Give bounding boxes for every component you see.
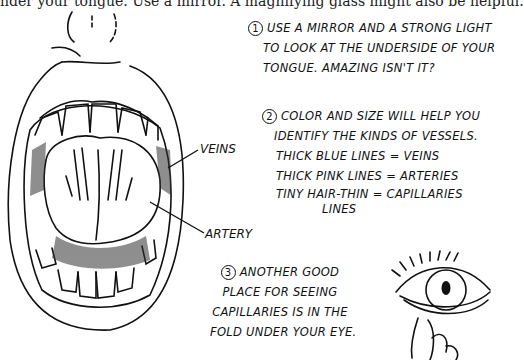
- note-2-line-1: COLOR AND SIZE WILL HELP YOU: [281, 109, 480, 123]
- note-2-line-5: TINY HAIR-THIN = CAPILLARIES: [262, 186, 480, 202]
- note-3-line-3: CAPILLARIES IS IN THE: [210, 302, 350, 322]
- note-1-line-3: TONGUE. AMAZING ISN'T IT?: [248, 58, 495, 78]
- note-2: 2COLOR AND SIZE WILL HELP YOU IDENTIFY T…: [262, 106, 480, 216]
- note-2-line-4: THICK PINK LINES = ARTERIES: [262, 166, 480, 186]
- note-2-line-2: IDENTIFY THE KINDS OF VESSELS.: [262, 126, 480, 146]
- note-3-line-1: ANOTHER GOOD: [240, 265, 340, 279]
- note-2-line-3: THICK BLUE LINES = VEINS: [262, 146, 480, 166]
- note-1-line-1: USE A MIRROR AND A STRONG LIGHT: [267, 21, 492, 35]
- note-3-line-4: FOLD UNDER YOUR EYE.: [210, 322, 350, 342]
- note-1: 1USE A MIRROR AND A STRONG LIGHT TO LOOK…: [248, 18, 495, 78]
- note-number-1: 1: [248, 21, 263, 36]
- note-number-2: 2: [262, 109, 277, 124]
- veins-label: VEINS: [200, 142, 236, 156]
- note-1-line-2: TO LOOK AT THE UNDERSIDE OF YOUR: [248, 38, 495, 58]
- artery-label: ARTERY: [205, 227, 252, 241]
- note-number-3: 3: [221, 265, 236, 280]
- note-3-line-2: PLACE FOR SEEING: [210, 282, 350, 302]
- note-2-line-6: LINES: [262, 202, 480, 216]
- note-3: 3ANOTHER GOOD PLACE FOR SEEING CAPILLARI…: [210, 262, 350, 342]
